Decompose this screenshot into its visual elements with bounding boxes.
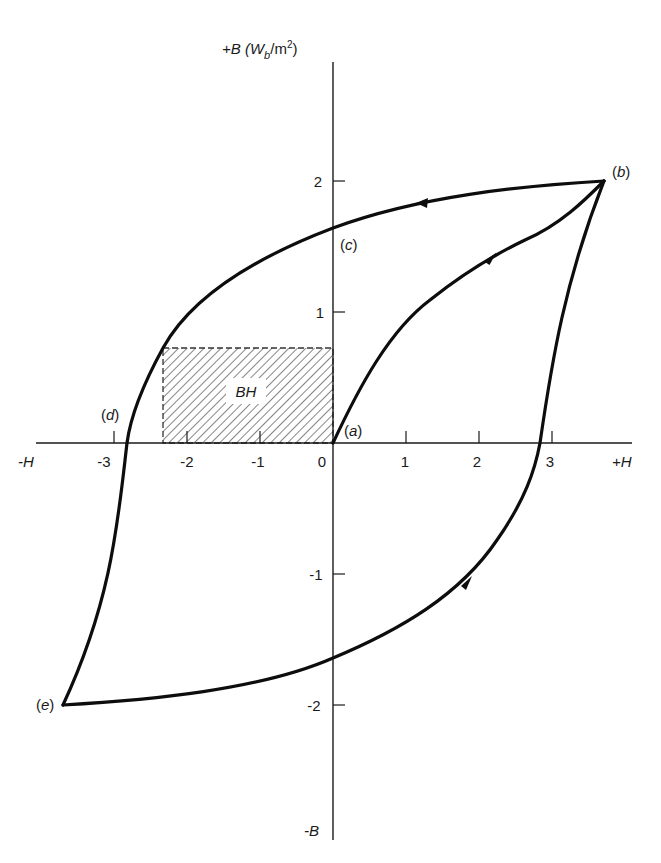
x-tick-label: -3 xyxy=(97,453,110,470)
x-tick-label: -1 xyxy=(251,453,264,470)
point-label-b: (b) xyxy=(612,163,630,180)
y-axis-label: +B (Wb/m2) xyxy=(222,39,297,61)
bh-label: BH xyxy=(236,383,257,400)
y-tick-label: -2 xyxy=(307,697,320,714)
x-tick-label: 0 xyxy=(318,453,326,470)
x-axis-label: +H xyxy=(612,453,632,470)
x-tick-label: 3 xyxy=(546,453,554,470)
y-tick-label: 1 xyxy=(316,304,324,321)
hysteresis-diagram: BH -3 -2 -1 0 1 2 3 -H +H 2 1 -1 -2 -B +… xyxy=(0,0,661,863)
x-axis-negative-label: -H xyxy=(18,453,34,470)
x-tick-labels: -3 -2 -1 0 1 2 3 xyxy=(97,453,554,470)
arrow-upper-branch-icon xyxy=(416,198,428,208)
y-tick-label: 2 xyxy=(314,173,322,190)
point-label-e: (e) xyxy=(36,696,54,713)
point-label-d: (d) xyxy=(101,406,119,423)
x-tick-label: 1 xyxy=(401,453,409,470)
point-label-a: (a) xyxy=(344,422,362,439)
y-tick-label: -1 xyxy=(309,566,322,583)
y-axis-negative-label: -B xyxy=(304,822,319,839)
x-tick-label: -2 xyxy=(180,453,193,470)
x-tick-label: 2 xyxy=(473,453,481,470)
point-label-c: (c) xyxy=(340,236,358,253)
